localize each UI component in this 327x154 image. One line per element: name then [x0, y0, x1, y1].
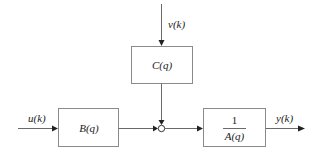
block-c: C(q)	[132, 47, 193, 84]
b-to-junction-wire	[119, 126, 159, 132]
output-wire	[266, 126, 306, 132]
block-c-label: C(q)	[152, 59, 173, 72]
block-b: B(q)	[59, 109, 119, 147]
noise-label: v(k)	[168, 18, 185, 31]
block-a: 1 A(q)	[204, 109, 266, 147]
arrow-head-icon	[52, 126, 58, 132]
arrow-head-icon	[159, 40, 165, 46]
block-a-denominator: A(q)	[224, 130, 245, 143]
input-wire	[18, 126, 58, 132]
output-label: y(k)	[275, 112, 293, 125]
input-label: u(k)	[28, 112, 46, 125]
block-a-numerator: 1	[232, 114, 238, 126]
summing-junction	[158, 125, 164, 131]
c-to-junction-wire	[159, 84, 165, 126]
arrow-head-icon	[153, 126, 158, 132]
junction-to-a-wire	[165, 126, 203, 132]
noise-input-wire	[159, 4, 165, 46]
arrow-head-icon	[298, 126, 305, 132]
block-diagram: v(k) C(q) u(k) B(q) 1 A(q)	[0, 0, 327, 154]
block-b-label: B(q)	[79, 122, 99, 135]
arrow-head-icon	[159, 120, 165, 125]
arrow-head-icon	[197, 126, 203, 132]
